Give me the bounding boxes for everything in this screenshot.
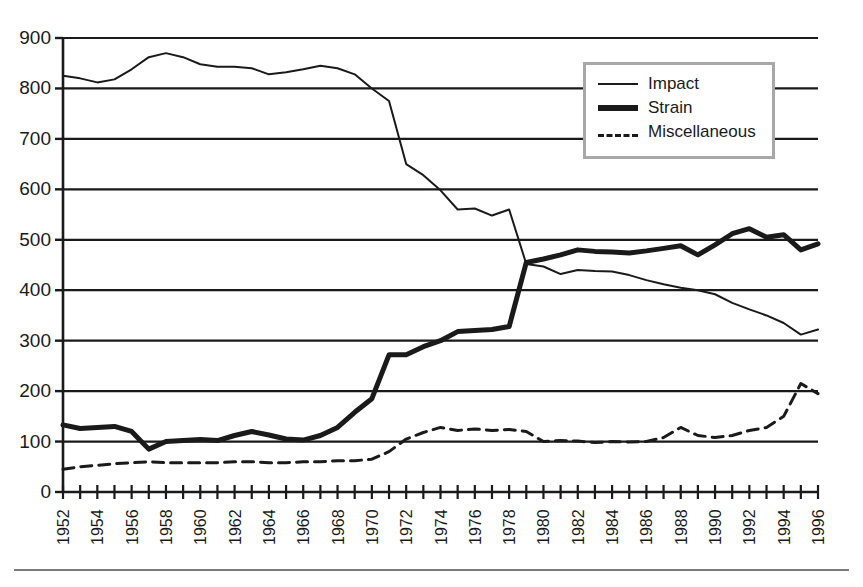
- x-tick-label-1984: 1984: [605, 509, 621, 545]
- y-tick-label-800: 800: [0, 78, 51, 97]
- x-tick-label-1962: 1962: [228, 509, 244, 545]
- legend-entry-strain: Strain: [598, 97, 692, 119]
- x-tick-label-1980: 1980: [536, 509, 552, 545]
- x-tick-label-1982: 1982: [571, 509, 587, 545]
- x-tick-label-1972: 1972: [399, 509, 415, 545]
- y-tick-label-0: 0: [0, 482, 51, 501]
- y-tick-label-700: 700: [0, 129, 51, 148]
- y-tick-label-400: 400: [0, 280, 51, 299]
- page-divider-rule: [14, 569, 849, 571]
- x-tick-label-1964: 1964: [262, 509, 278, 545]
- x-tick-label-1960: 1960: [193, 509, 209, 545]
- x-tick-label-1994: 1994: [777, 509, 793, 545]
- x-tick-label-1966: 1966: [296, 509, 312, 545]
- legend-label-miscellaneous: Miscellaneous: [648, 122, 756, 142]
- x-tick-label-1986: 1986: [639, 509, 655, 545]
- y-tick-label-900: 900: [0, 28, 51, 47]
- x-tick-label-1976: 1976: [468, 509, 484, 545]
- x-tick-label-1978: 1978: [502, 509, 518, 545]
- x-tick-label-1974: 1974: [434, 509, 450, 545]
- series-line-strain: [63, 229, 818, 449]
- legend-entry-impact: Impact: [598, 73, 699, 95]
- y-tick-label-500: 500: [0, 230, 51, 249]
- x-tick-label-1956: 1956: [125, 509, 141, 545]
- legend-label-impact: Impact: [648, 74, 699, 94]
- x-tick-label-1990: 1990: [708, 509, 724, 545]
- line-chart: 0100200300400500600700800900 19521954195…: [0, 0, 863, 587]
- x-tick-label-1968: 1968: [331, 509, 347, 545]
- y-tick-label-300: 300: [0, 331, 51, 350]
- legend-line-sample-dashed-icon: [598, 134, 638, 137]
- x-tick-label-1970: 1970: [365, 509, 381, 545]
- x-tick-label-1988: 1988: [674, 509, 690, 545]
- y-tick-label-100: 100: [0, 432, 51, 451]
- x-tick-label-1996: 1996: [811, 509, 827, 545]
- legend-line-sample-solid-thin-icon: [598, 77, 638, 91]
- y-tick-label-200: 200: [0, 381, 51, 400]
- legend-entry-miscellaneous: Miscellaneous: [598, 121, 756, 143]
- legend: Impact Strain Miscellaneous: [583, 62, 775, 159]
- legend-label-strain: Strain: [648, 98, 692, 118]
- x-tick-label-1958: 1958: [159, 509, 175, 545]
- series-line-miscellaneous: [63, 384, 818, 470]
- x-tick-label-1954: 1954: [90, 509, 106, 545]
- x-tick-label-1992: 1992: [742, 509, 758, 545]
- y-tick-label-600: 600: [0, 179, 51, 198]
- legend-line-sample-solid-thick-icon: [598, 101, 638, 115]
- x-tick-label-1952: 1952: [56, 509, 72, 545]
